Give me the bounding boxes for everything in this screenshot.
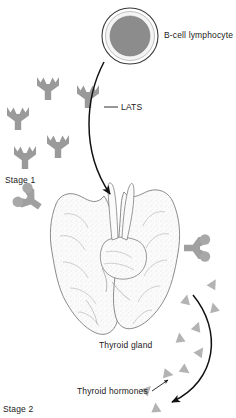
thyroid-hormone-icon [151, 402, 162, 413]
bound-lats-antibody-icon [184, 234, 210, 261]
thyroid-hormone-icon [193, 345, 207, 359]
label-stage-1: Stage 1 [5, 176, 35, 185]
label-thyroid-hormones: Thyroid hormones [77, 387, 148, 396]
lats-antibody-icon [7, 107, 29, 130]
lats-antibody-icon [14, 146, 36, 169]
diagram-svg-layer [0, 0, 236, 418]
label-lats: LATS [121, 103, 142, 112]
thyroid-hormone-icon [191, 320, 204, 333]
free-lats-antibody-group [7, 77, 99, 169]
diagram-canvas: B-cell lymphocyte LATS Stage 1 Thyroid g… [0, 0, 236, 418]
bound-lats-antibody-icon [11, 181, 48, 218]
lats-antibody-icon [47, 135, 69, 158]
hormone-release-arrow [172, 295, 211, 402]
thyroid-hormone-icon [179, 363, 193, 377]
b-cell-lymphocyte [102, 8, 158, 64]
hormone-leader-line [152, 380, 168, 391]
thyroid-hormone-icon [208, 301, 220, 313]
lats-secretion-arrow [89, 62, 110, 194]
thyroid-gland-illustration [50, 183, 179, 335]
label-stage-2: Stage 2 [3, 405, 33, 414]
label-b-cell-lymphocyte: B-cell lymphocyte [164, 31, 233, 40]
lats-antibody-icon [77, 85, 99, 108]
lats-antibody-icon [37, 77, 59, 100]
label-thyroid-gland: Thyroid gland [99, 341, 152, 350]
thyroid-hormone-icon [207, 277, 221, 290]
thyroid-hormone-icon [180, 293, 192, 305]
thyroid-hormone-icon [163, 368, 174, 380]
thyroid-hormone-icon [174, 332, 185, 343]
